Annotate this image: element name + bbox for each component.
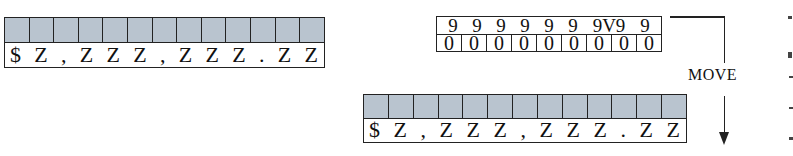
clipped-text-fragment — [789, 76, 793, 78]
storage-cell — [103, 18, 128, 42]
storage-cell — [30, 18, 55, 42]
storage-cell — [128, 18, 153, 42]
clipped-text-fragment — [788, 52, 792, 58]
storage-cell — [488, 95, 513, 118]
picture-char: Z — [80, 42, 93, 68]
digit-cell: 0 — [462, 35, 487, 52]
storage-cells-row — [5, 18, 324, 43]
clipped-text-fragment — [789, 107, 793, 109]
storage-cell — [364, 95, 389, 118]
move-connector-vertical-top — [724, 16, 726, 63]
move-label: MOVE — [688, 66, 737, 84]
digit-cell: 0 — [537, 35, 562, 52]
picture-char: Z — [567, 117, 580, 143]
digit-cell: 0 — [612, 35, 637, 52]
storage-cell — [226, 18, 251, 42]
storage-cell — [202, 18, 227, 42]
picture-char: Z — [278, 42, 291, 68]
picture-char: Z — [232, 42, 245, 68]
storage-cell — [414, 95, 439, 118]
move-connector-horizontal — [670, 16, 725, 18]
digit-cell: 0 — [637, 35, 661, 52]
sending-field: 9 9 9 9 9 9 9V9 9 0 0 0 0 0 0 0 0 0 — [436, 16, 662, 52]
storage-cell — [300, 18, 324, 42]
picture-char: Z — [305, 42, 318, 68]
picture-char: Z — [540, 117, 553, 143]
picture-char: , — [421, 117, 427, 143]
storage-cell — [513, 95, 538, 118]
storage-cell — [251, 18, 276, 42]
picture-char: Z — [133, 42, 146, 68]
storage-cell — [662, 95, 686, 118]
storage-cell — [79, 18, 104, 42]
picture-char: Z — [206, 42, 219, 68]
digit-cell: 0 — [512, 35, 537, 52]
picture-char: . — [620, 117, 626, 143]
picture-char: $ — [10, 42, 21, 68]
storage-cell — [54, 18, 79, 42]
digit-cell: 0 — [437, 35, 462, 52]
arrow-down-icon — [719, 132, 729, 145]
picture-char: Z — [467, 117, 480, 143]
storage-cell — [389, 95, 414, 118]
picture-char: Z — [179, 42, 192, 68]
picture-char: Z — [640, 117, 653, 143]
storage-cell — [538, 95, 563, 118]
receiving-field-before: $ Z , Z Z Z , Z Z Z . Z Z — [4, 17, 325, 68]
storage-cells-row — [364, 95, 686, 119]
storage-cell — [177, 18, 202, 42]
digit-cell: 0 — [587, 35, 612, 52]
storage-cell — [153, 18, 178, 42]
storage-cell — [463, 95, 488, 118]
picture-char: , — [521, 117, 527, 143]
storage-cell — [276, 18, 301, 42]
picture-char: Z — [594, 117, 607, 143]
digit-cell: 0 — [562, 35, 587, 52]
clipped-text-fragment — [788, 16, 792, 19]
picture-char: Z — [440, 117, 453, 143]
storage-cell — [637, 95, 662, 118]
move-connector-vertical-bottom — [724, 96, 726, 134]
storage-cell — [563, 95, 588, 118]
picture-char: $ — [369, 117, 380, 143]
storage-cell — [612, 95, 637, 118]
storage-cell — [588, 95, 613, 118]
storage-cell — [439, 95, 464, 118]
picture-char: , — [61, 42, 67, 68]
picture-char: Z — [667, 117, 680, 143]
picture-char: . — [259, 42, 265, 68]
sending-values-row: 0 0 0 0 0 0 0 0 0 — [437, 35, 661, 52]
digit-cell: 0 — [487, 35, 512, 52]
picture-clause-row: $ Z , Z Z Z , Z Z Z . Z Z — [5, 43, 324, 66]
picture-clause-row: $ Z , Z Z Z , Z Z Z . Z Z — [364, 119, 686, 141]
picture-char: Z — [34, 42, 47, 68]
storage-cell — [5, 18, 30, 42]
receiving-field-after: $ Z , Z Z Z , Z Z Z . Z Z — [363, 94, 687, 143]
picture-char: , — [160, 42, 166, 68]
picture-char: Z — [394, 117, 407, 143]
picture-char: Z — [107, 42, 120, 68]
picture-char: Z — [494, 117, 507, 143]
clipped-text-fragment — [789, 137, 793, 140]
